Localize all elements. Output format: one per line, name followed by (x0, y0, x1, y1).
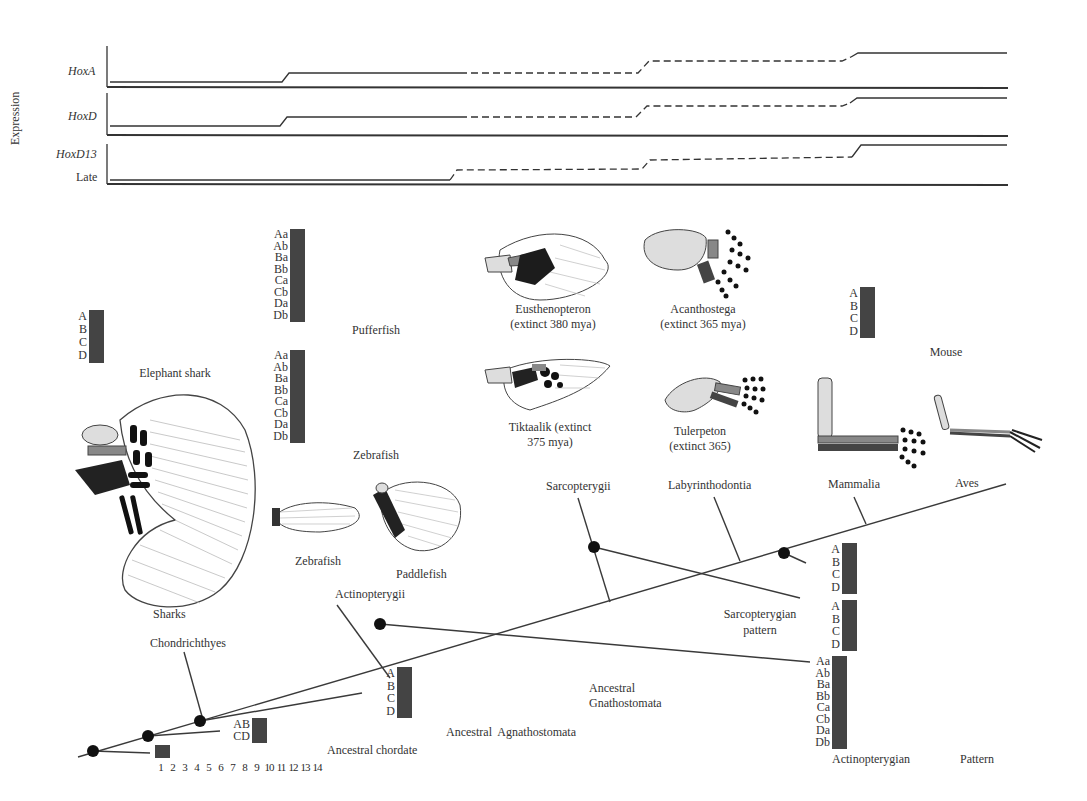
grid-cell (874, 300, 875, 313)
grid-cell (856, 569, 857, 582)
grid-row (291, 264, 305, 276)
grid-cell (846, 703, 847, 715)
grid-cell (856, 613, 857, 626)
grid-cell (304, 299, 305, 311)
grid-cell (874, 288, 875, 301)
grid-cell (411, 705, 412, 718)
grid-row (253, 731, 267, 743)
grid-cell (304, 230, 305, 242)
row-label: Db (812, 737, 830, 749)
zebrafish-fin-icon (272, 503, 359, 532)
row-label: D (383, 705, 395, 718)
expression-grid (290, 229, 305, 322)
column-number: 11 (275, 761, 287, 773)
row-labels: ABCD (828, 543, 840, 593)
grid-row (291, 287, 305, 299)
column-number: 4 (191, 761, 203, 773)
row-labels: AaAbBaBbCaCbDaDb (270, 350, 288, 442)
grid-cell (874, 313, 875, 326)
grid-caption: Ancestral Agnathostomata (446, 725, 576, 740)
shark-fin-icon (75, 395, 255, 607)
expression-grid (860, 287, 875, 338)
row-label: A (846, 287, 858, 300)
grid-row (291, 374, 305, 386)
grid-row (90, 311, 104, 324)
grid-caption: Mouse (860, 345, 1032, 360)
column-number: 9 (251, 761, 263, 773)
grid-row (843, 638, 857, 651)
column-number: 14 (311, 761, 323, 773)
grid-row (291, 408, 305, 420)
grid-cell (304, 351, 305, 363)
row-label: C (828, 625, 840, 638)
grid-row (291, 351, 305, 363)
grid-cell (304, 420, 305, 432)
row-label: D (828, 638, 840, 651)
column-number: 2 (167, 761, 179, 773)
row-label: Db (270, 310, 288, 322)
column-number-row: 1234567891011121314 (155, 761, 323, 773)
grid-row (843, 626, 857, 639)
grid-row (833, 668, 847, 680)
grid-cell (856, 556, 857, 569)
grid-cell (846, 726, 847, 738)
grid-row (833, 737, 847, 749)
expression-grid (155, 745, 170, 758)
grid-cell (874, 325, 875, 338)
specimen-label-tiktaalik: Tiktaalik (extinct 375 mya) (495, 420, 605, 450)
grid-row (291, 310, 305, 322)
column-number: 12 (287, 761, 299, 773)
column-number: 3 (179, 761, 191, 773)
expression-grid (397, 667, 412, 718)
row-label: C (846, 312, 858, 325)
row-labels: ABCD (383, 667, 395, 717)
grid-row (398, 668, 412, 681)
column-number: 10 (263, 761, 275, 773)
grid-cell (304, 264, 305, 276)
grid-row (843, 569, 857, 582)
acanthostega-limb-icon (644, 230, 750, 299)
track-label-hoxd13: HoxD13 (56, 147, 97, 162)
row-labels: ABCD (846, 287, 858, 337)
grid-row (291, 241, 305, 253)
grid-cell (266, 719, 267, 731)
grid-cell (846, 714, 847, 726)
grid-cell (411, 668, 412, 681)
grid-caption-actinopterygian: Actinopterygian (832, 752, 910, 767)
grid-cell (103, 311, 104, 324)
grid-cell (304, 276, 305, 288)
clade-label-aves: Aves (955, 476, 979, 491)
row-label: Db (270, 431, 288, 443)
grid-row (90, 324, 104, 337)
grid-row (843, 544, 857, 557)
bird-wing-icon (934, 395, 1042, 452)
track-sublabel-late: Late (76, 170, 97, 185)
tulerpeton-limb-icon (665, 377, 766, 415)
row-label: D (75, 349, 87, 362)
grid-cell (304, 431, 305, 443)
grid-row (291, 385, 305, 397)
expression-axis-label: Expression (8, 92, 23, 145)
specimen-label-zebrafish-fin: Zebrafish (295, 554, 341, 569)
grid-cell (411, 680, 412, 693)
grid-cell (304, 253, 305, 265)
grid-cell (846, 680, 847, 692)
row-labels: AaAbBaBbCaCbDaDb (812, 656, 830, 748)
grid-row (291, 362, 305, 374)
expression-plot (0, 0, 1087, 200)
grid-row (843, 613, 857, 626)
grid-cell (846, 737, 847, 749)
grid-cell (846, 668, 847, 680)
grid-caption: Ancestral Gnathostomata (589, 681, 669, 711)
grid-row (843, 601, 857, 614)
specimen-label-sharks: Sharks (153, 607, 186, 622)
row-label: C (383, 692, 395, 705)
grid-row (291, 253, 305, 265)
grid-row (833, 691, 847, 703)
grid-cell (846, 657, 847, 669)
row-label: C (828, 568, 840, 581)
grid-cell (304, 362, 305, 374)
grid-cell (103, 350, 104, 363)
row-label: A (828, 543, 840, 556)
expression-grid (832, 656, 847, 749)
